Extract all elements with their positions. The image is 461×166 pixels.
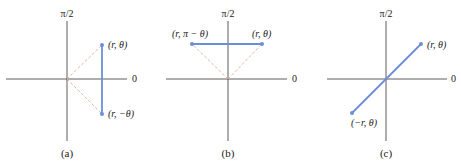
dashed-ray bbox=[192, 44, 228, 79]
dashed-ray bbox=[228, 44, 262, 79]
point-label: (r, θ) bbox=[252, 28, 272, 40]
point-marker bbox=[260, 42, 264, 46]
axis-label-zero: 0 bbox=[132, 73, 137, 84]
panel-caption: (a) bbox=[61, 147, 74, 160]
symmetry-segment bbox=[352, 44, 421, 113]
dashed-ray bbox=[67, 45, 102, 79]
point-label: (r, θ) bbox=[427, 39, 447, 51]
point-label: (r, −θ) bbox=[108, 108, 135, 120]
point-label: (−r, θ) bbox=[351, 117, 378, 129]
panel-c: π/2 0 (r, θ) (−r, θ) (c) bbox=[327, 8, 456, 160]
point-marker bbox=[350, 111, 354, 115]
point-marker bbox=[100, 43, 104, 47]
point-marker bbox=[100, 112, 104, 116]
dashed-ray bbox=[67, 79, 102, 114]
panel-b: π/2 0 (r, π − θ) (r, θ) (b) bbox=[166, 8, 297, 160]
point-marker bbox=[190, 42, 194, 46]
panel-caption: (c) bbox=[380, 147, 393, 160]
panel-a: π/2 0 (r, θ) (r, −θ) (a) bbox=[6, 8, 137, 160]
axis-label-pi-over-2: π/2 bbox=[380, 8, 393, 19]
axis-label-zero: 0 bbox=[292, 73, 297, 84]
point-label: (r, π − θ) bbox=[172, 28, 209, 40]
point-marker bbox=[419, 42, 423, 46]
polar-symmetry-diagram: π/2 0 (r, θ) (r, −θ) (a) π/2 0 (r, π − θ… bbox=[0, 0, 461, 166]
axis-label-pi-over-2: π/2 bbox=[61, 8, 74, 19]
point-label: (r, θ) bbox=[108, 39, 128, 51]
panel-caption: (b) bbox=[222, 147, 235, 160]
axis-label-zero: 0 bbox=[451, 73, 456, 84]
axis-label-pi-over-2: π/2 bbox=[222, 8, 235, 19]
